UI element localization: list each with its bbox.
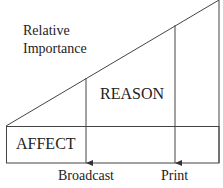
axis-label-importance: Importance xyxy=(23,41,87,57)
axis-label-relative: Relative xyxy=(23,23,70,39)
importance-slope-line xyxy=(6,0,219,126)
print-label: Print xyxy=(161,168,188,184)
reason-label: REASON xyxy=(100,86,164,102)
broadcast-label: Broadcast xyxy=(58,168,114,184)
affect-label: AFFECT xyxy=(16,136,76,152)
